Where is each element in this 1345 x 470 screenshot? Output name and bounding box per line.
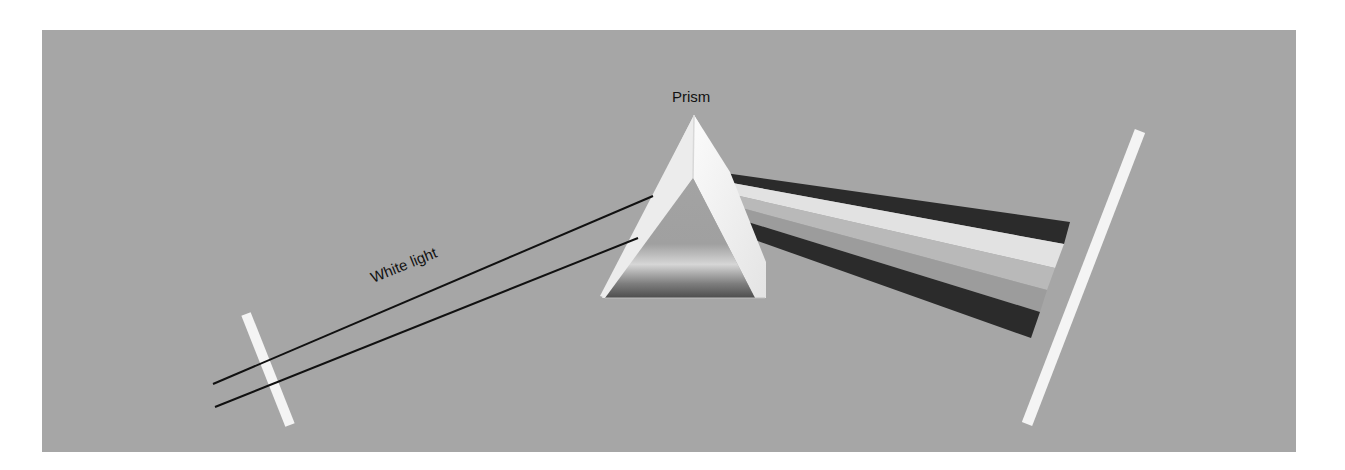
prism bbox=[600, 115, 766, 298]
prism-dispersion-diagram bbox=[0, 0, 1345, 470]
white-light-rays bbox=[213, 196, 653, 407]
entrance-slit bbox=[246, 314, 290, 425]
spectrum-bands bbox=[718, 172, 1070, 338]
prism-label: Prism bbox=[672, 88, 710, 105]
ray-upper bbox=[213, 196, 653, 384]
